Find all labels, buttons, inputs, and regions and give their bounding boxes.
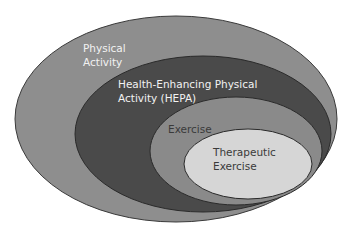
nested-ellipse-diagram [0,0,348,240]
hepa-label-line1: Health-Enhancing Physical [118,77,257,91]
therapeutic-exercise-label-line2: Exercise [213,159,276,173]
physical-activity-label-line1: Physical [83,41,126,55]
exercise-label-line1: Exercise [168,122,212,136]
therapeutic-exercise-label-line1: Therapeutic [213,145,276,159]
physical-activity-label-line2: Activity [83,55,126,69]
hepa-label: Health-Enhancing Physical Activity (HEPA… [118,77,257,105]
exercise-label: Exercise [168,122,212,136]
therapeutic-exercise-label: Therapeutic Exercise [213,145,276,173]
hepa-label-line2: Activity (HEPA) [118,91,257,105]
physical-activity-label: Physical Activity [83,41,126,69]
